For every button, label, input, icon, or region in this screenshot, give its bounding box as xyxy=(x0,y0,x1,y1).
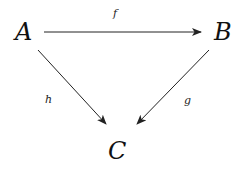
node-a: A xyxy=(15,20,32,44)
arrow-h xyxy=(38,50,106,124)
arrow-g xyxy=(137,50,209,124)
node-b: B xyxy=(214,20,232,44)
label-f: f xyxy=(113,8,117,19)
label-h: h xyxy=(45,94,52,105)
label-g: g xyxy=(184,95,191,106)
node-c: C xyxy=(108,139,126,163)
